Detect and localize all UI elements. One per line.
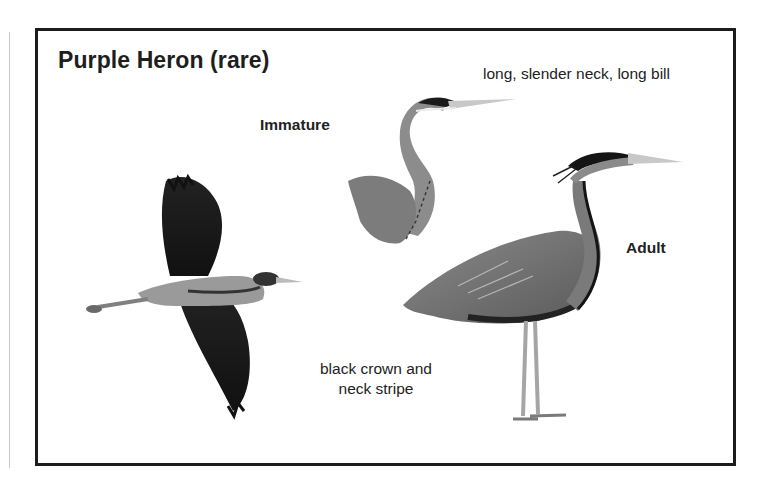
flying-heron-figure xyxy=(86,177,303,416)
heron-illustrations xyxy=(38,31,733,463)
illustration-panel: Purple Heron (rare) Immature long, slend… xyxy=(35,28,736,466)
adult-heron-figure xyxy=(403,152,683,419)
immature-heron-figure xyxy=(348,98,516,244)
page-margin-rule xyxy=(9,32,10,468)
